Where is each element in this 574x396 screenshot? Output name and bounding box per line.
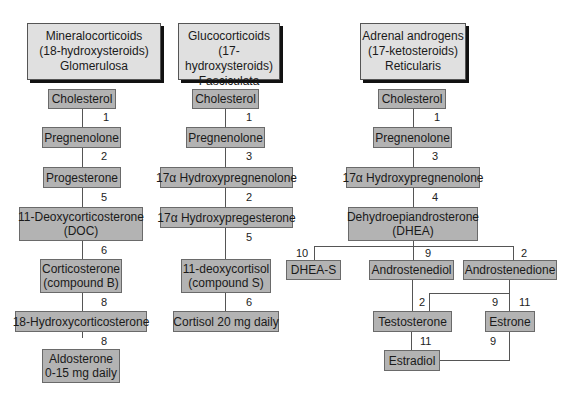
step-label: 2 <box>101 150 107 162</box>
header-title: Mineralocorticoids <box>28 29 160 44</box>
node-label: Androstenedione <box>465 263 556 277</box>
node-label: 11-deoxycortisol <box>183 262 269 276</box>
node-estrone: Estrone <box>485 311 535 332</box>
node-label: 17α Hydroxypregnenolone <box>342 171 483 185</box>
connector <box>440 360 510 361</box>
step-label: 8 <box>101 296 107 308</box>
connector <box>411 332 412 350</box>
step-label: 3 <box>246 150 252 162</box>
header-subtitle: (17-ketosteroids) <box>361 44 465 59</box>
connector <box>429 293 430 312</box>
node-label: Estrone <box>489 315 530 329</box>
node-androstenediol: Androstenediol <box>369 260 454 280</box>
node-label: Corticosterone <box>42 262 120 276</box>
header-subtitle: (18-hydroxysteroids) <box>28 44 160 59</box>
step-label: 9 <box>492 296 498 308</box>
node-cholesterol-2: Cholesterol <box>192 89 259 109</box>
node-label: Cholesterol <box>195 92 256 106</box>
connector <box>413 241 414 261</box>
step-label: 10 <box>296 247 308 259</box>
header-title: Glucocorticoids <box>179 29 279 44</box>
step-label: 11 <box>420 335 431 347</box>
node-sublabel: (DHEA) <box>392 224 433 238</box>
node-dhea-s: DHEA-S <box>286 260 341 280</box>
node-label: Cholesterol <box>382 92 443 106</box>
header-zone: Reticularis <box>361 59 465 74</box>
node-17a-hydroxypregnenolone-2: 17α Hydroxypregnenolone <box>160 167 293 188</box>
connector <box>314 246 514 247</box>
node-label: Estradiol <box>389 354 436 368</box>
node-cholesterol-3: Cholesterol <box>378 89 446 109</box>
step-label: 2 <box>521 247 527 259</box>
connector <box>314 246 315 260</box>
step-label: 1 <box>434 111 440 123</box>
connector <box>413 108 414 208</box>
node-sublabel: (compound B) <box>43 276 118 290</box>
node-deoxycorticosterone: 11-Deoxycorticosterone (DOC) <box>19 207 143 241</box>
node-aldosterone: Aldosterone 0-15 mg daily <box>42 349 120 383</box>
node-label: Dehydroepiandrosterone <box>347 210 479 224</box>
node-dhea: Dehydroepiandrosterone (DHEA) <box>348 207 478 241</box>
header-glucocorticoids: Glucocorticoids (17-hydroxysteroids) Fas… <box>178 23 280 80</box>
step-label: 9 <box>490 335 496 347</box>
connector <box>513 246 514 260</box>
node-label: Androstenediol <box>371 263 451 277</box>
node-sublabel: 0-15 mg daily <box>45 366 117 380</box>
node-cortisol: Cortisol 20 mg daily <box>173 311 279 332</box>
header-zone: Glomerulosa <box>28 59 160 74</box>
step-label: 6 <box>246 296 252 308</box>
header-title: Adrenal androgens <box>361 29 465 44</box>
connector <box>509 280 510 312</box>
node-label: 17α Hydroxypregnenolone <box>156 171 297 185</box>
step-label: 5 <box>101 191 107 203</box>
node-estradiol: Estradiol <box>384 350 440 371</box>
step-label: 1 <box>103 111 109 123</box>
node-label: Pregnenolone <box>188 131 263 145</box>
connector <box>412 280 413 312</box>
step-label: 6 <box>101 244 107 256</box>
node-17a-hydroxyprogesterone: 17α Hydroxypregesterone <box>160 207 293 228</box>
connector <box>429 293 509 294</box>
node-androstenedione: Androstenedione <box>463 260 557 280</box>
node-corticosterone: Corticosterone (compound B) <box>40 259 122 293</box>
node-11-deoxycortisol: 11-deoxycortisol (compound S) <box>181 259 271 293</box>
node-cholesterol-1: Cholesterol <box>48 89 116 109</box>
node-label: Progesterone <box>46 171 118 185</box>
header-adrenal-androgens: Adrenal androgens (17-ketosteroids) Reti… <box>360 23 466 80</box>
node-sublabel: (DOC) <box>64 224 99 238</box>
step-label: 3 <box>432 150 438 162</box>
node-label: 18-Hydroxycorticosterone <box>13 315 150 329</box>
node-testosterone: Testosterone <box>373 311 452 332</box>
step-label: 11 <box>519 296 530 308</box>
node-pregnenolone-3: Pregnenolone <box>373 127 452 148</box>
node-pregnenolone-1: Pregnenolone <box>42 127 121 148</box>
node-label: DHEA-S <box>291 263 336 277</box>
node-label: Cholesterol <box>52 92 113 106</box>
node-label: 11-Deoxycorticosterone <box>18 210 144 224</box>
node-label: Pregnenolone <box>44 131 119 145</box>
step-label: 2 <box>246 191 252 203</box>
node-label: Aldosterone <box>49 352 113 366</box>
node-18-hydroxycorticosterone: 18-Hydroxycorticosterone <box>15 311 147 332</box>
header-subtitle: (17-hydroxysteroids) <box>179 44 279 74</box>
step-label: 9 <box>425 247 431 259</box>
node-label: Testosterone <box>378 315 447 329</box>
header-mineralocorticoids: Mineralocorticoids (18-hydroxysteroids) … <box>27 23 161 80</box>
node-sublabel: (compound S) <box>188 276 263 290</box>
node-17a-hydroxypregnenolone-3: 17α Hydroxypregnenolone <box>346 167 480 188</box>
step-label: 2 <box>419 296 425 308</box>
step-label: 4 <box>432 191 438 203</box>
node-progesterone: Progesterone <box>43 167 121 188</box>
node-label: Pregnenolone <box>375 131 450 145</box>
node-pregnenolone-2: Pregnenolone <box>186 127 265 148</box>
node-label: Cortisol 20 mg daily <box>173 315 278 329</box>
connector <box>509 332 510 361</box>
header-zone: Fasciculata <box>179 74 279 89</box>
step-label: 8 <box>101 335 107 347</box>
step-label: 1 <box>246 111 252 123</box>
step-label: 5 <box>246 231 252 243</box>
node-label: 17α Hydroxypregesterone <box>157 211 295 225</box>
